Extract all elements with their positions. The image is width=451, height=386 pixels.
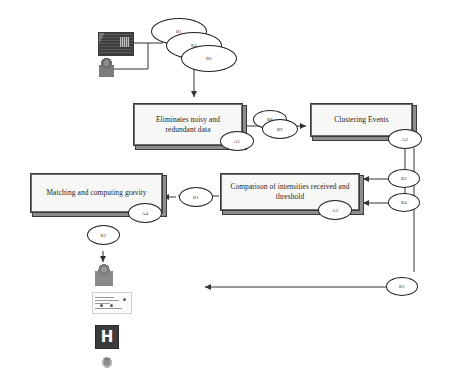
- data-tag-b9: B9: [262, 119, 298, 139]
- person-image-bottom: Person: [95, 264, 113, 286]
- data-tag-b6: B6: [181, 45, 237, 72]
- tag-label: B9: [277, 127, 283, 132]
- diagram-root: Sensor board Person B1 B4 B6 Eliminates …: [0, 0, 451, 386]
- tag-label: A1: [234, 139, 241, 144]
- tag-label: B5: [399, 284, 405, 289]
- process-tag-a1: A1: [220, 131, 254, 151]
- data-tag-b3: B3: [388, 169, 420, 188]
- sensor-board-image: Sensor board: [98, 32, 134, 56]
- process-label: Clustering Events: [334, 115, 388, 125]
- process-tag-a4: A4: [128, 203, 162, 223]
- tag-label: B6: [206, 56, 212, 61]
- hospital-letter: H: [101, 330, 114, 345]
- process-label: Eliminates noisy and redundant data: [141, 115, 235, 135]
- data-tag-b5: B5: [386, 277, 418, 296]
- process-label: Matching and computing gravity: [46, 188, 146, 198]
- tag-label: B4: [401, 200, 407, 205]
- process-tag-a2: A2: [388, 129, 422, 149]
- tag-label: A2: [402, 137, 409, 142]
- ambulance-icon: Ambulance: [101, 357, 113, 369]
- hospital-sign-icon: H: [95, 325, 119, 349]
- person-image-top: Person: [99, 57, 114, 77]
- tag-label: A3: [332, 208, 339, 213]
- report-document-image: Report: [92, 292, 132, 314]
- data-tag-b1-middle: B1: [179, 187, 213, 207]
- process-tag-a3: A3: [318, 200, 352, 220]
- tag-label: B2: [101, 233, 107, 238]
- tag-label: A4: [142, 211, 149, 216]
- tag-label: B3: [401, 176, 407, 181]
- process-label: Comparison of intensities received and t…: [228, 182, 352, 202]
- data-tag-b2: B2: [87, 225, 120, 245]
- data-tag-b4-right: B4: [388, 193, 420, 212]
- tag-label: B1: [193, 195, 199, 200]
